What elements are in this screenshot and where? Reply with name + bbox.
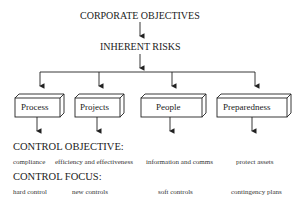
objective-projects: efficiency and effectiveness [55, 158, 133, 166]
corporate-objectives-label: CORPORATE OBJECTIVES [80, 10, 200, 21]
category-projects: Projects [80, 102, 109, 112]
focus-preparedness: contingency plans [231, 188, 282, 196]
category-people: People [156, 102, 181, 112]
objective-people: information and comms [146, 158, 213, 166]
control-objective-heading: CONTROL OBJECTIVE: [13, 141, 124, 152]
control-focus-heading: CONTROL FOCUS: [13, 171, 102, 182]
focus-process: hard control [13, 188, 47, 196]
category-preparedness: Preparedness [223, 102, 270, 112]
focus-people: soft controls [158, 188, 193, 196]
objective-process: compliance [13, 158, 45, 166]
category-process: Process [21, 102, 49, 112]
objective-preparedness: protect assets [236, 158, 274, 166]
inherent-risks-label: INHERENT RISKS [100, 41, 181, 52]
focus-projects: new controls [72, 188, 108, 196]
